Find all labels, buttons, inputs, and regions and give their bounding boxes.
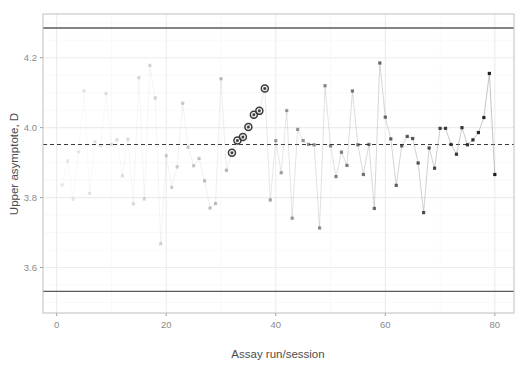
data-point-marker <box>438 127 441 130</box>
data-point-marker <box>104 92 107 95</box>
data-point-marker <box>165 154 168 157</box>
data-point-marker <box>329 144 332 147</box>
data-point-marker <box>323 84 326 87</box>
data-point-marker <box>121 174 124 177</box>
data-point-marker <box>356 143 359 146</box>
y-tick-label: 3.8 <box>24 192 37 203</box>
y-tick-label: 3.6 <box>24 262 37 273</box>
data-point-marker <box>126 138 129 141</box>
data-point-marker <box>197 157 200 160</box>
x-tick-label: 40 <box>270 319 281 330</box>
x-tick-label: 20 <box>161 319 172 330</box>
data-point-marker <box>99 144 102 147</box>
data-point-marker <box>400 144 403 147</box>
data-point-marker <box>154 96 157 99</box>
data-point-marker <box>61 183 64 186</box>
data-point-marker <box>93 140 96 143</box>
data-point-marker <box>72 198 75 201</box>
data-point-marker <box>367 143 370 146</box>
data-point-marker <box>214 202 217 205</box>
y-tick-label: 4.2 <box>24 52 37 63</box>
data-point-marker <box>115 138 118 141</box>
data-point-marker <box>82 89 85 92</box>
data-point-marker <box>219 77 222 80</box>
data-point-marker <box>143 197 146 200</box>
data-point-marker <box>77 150 80 153</box>
run-highlight-dot <box>242 136 245 139</box>
data-point-marker <box>428 146 431 149</box>
data-point-marker <box>159 242 162 245</box>
run-highlight-dot <box>231 152 234 155</box>
data-point-marker <box>482 116 485 119</box>
data-point-marker <box>411 137 414 140</box>
data-point-marker <box>203 179 206 182</box>
data-point-marker <box>406 135 409 138</box>
data-point-marker <box>137 76 140 79</box>
x-axis-label: Assay run/session <box>231 348 324 360</box>
data-point-marker <box>362 173 365 176</box>
data-point-marker <box>280 171 283 174</box>
data-point-marker <box>384 116 387 119</box>
data-point-marker <box>291 217 294 220</box>
data-point-marker <box>449 143 452 146</box>
data-point-marker <box>285 109 288 112</box>
plot-panel <box>43 14 514 313</box>
data-point-marker <box>148 64 151 67</box>
data-point-marker <box>334 175 337 178</box>
data-point-marker <box>433 167 436 170</box>
data-point-marker <box>88 192 91 195</box>
data-point-marker <box>417 161 420 164</box>
data-point-marker <box>477 131 480 134</box>
chart-canvas: 3.63.84.04.2 020406080 Upper asymptote, … <box>0 0 530 371</box>
data-point-marker <box>455 153 458 156</box>
x-tick-label: 60 <box>380 319 391 330</box>
data-point-marker <box>110 143 113 146</box>
data-point-marker <box>181 102 184 105</box>
y-tick-label: 4.0 <box>24 122 37 133</box>
x-tick-label: 80 <box>490 319 501 330</box>
data-point-marker <box>192 164 195 167</box>
run-highlight-dot <box>258 110 261 113</box>
data-point-marker <box>170 186 173 189</box>
data-point-marker <box>466 143 469 146</box>
data-point-marker <box>471 138 474 141</box>
data-point-marker <box>307 143 310 146</box>
data-point-marker <box>488 72 491 75</box>
data-point-marker <box>395 184 398 187</box>
data-point-marker <box>313 143 316 146</box>
run-highlight-dot <box>236 139 239 142</box>
data-point-marker <box>345 164 348 167</box>
run-highlight-dot <box>247 126 250 129</box>
data-point-marker <box>493 173 496 176</box>
run-highlight-dot <box>253 113 256 116</box>
data-point-marker <box>340 151 343 154</box>
data-point-marker <box>269 198 272 201</box>
data-point-marker <box>187 146 190 149</box>
data-point-marker <box>66 159 69 162</box>
data-point-marker <box>351 89 354 92</box>
panel-background <box>43 14 514 313</box>
data-point-marker <box>389 137 392 140</box>
data-point-marker <box>225 169 228 172</box>
data-point-marker <box>302 139 305 142</box>
run-highlight-dot <box>264 87 267 90</box>
control-chart-figure: 3.63.84.04.2 020406080 Upper asymptote, … <box>0 0 530 371</box>
x-tick-label: 0 <box>54 319 59 330</box>
data-point-marker <box>274 139 277 142</box>
data-point-marker <box>373 207 376 210</box>
data-point-marker <box>176 165 179 168</box>
data-point-marker <box>422 211 425 214</box>
data-point-marker <box>208 206 211 209</box>
data-point-marker <box>444 127 447 130</box>
data-point-marker <box>318 226 321 229</box>
data-point-marker <box>132 202 135 205</box>
y-axis-label: Upper asymptote, D <box>8 113 20 215</box>
data-point-marker <box>378 61 381 64</box>
data-point-marker <box>460 126 463 129</box>
data-point-marker <box>296 128 299 131</box>
